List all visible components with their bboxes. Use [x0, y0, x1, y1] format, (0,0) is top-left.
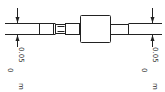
left-base-label: 0 [6, 68, 13, 72]
shaft-segment-3 [66, 24, 80, 35]
shaft-drawing [0, 0, 165, 92]
right-base-label: 0 [140, 68, 147, 72]
shaft-collar [81, 16, 111, 43]
shaft-segment-1 [40, 24, 54, 35]
shaft-segment-2 [56, 25, 66, 34]
right-unit-label: m [151, 83, 158, 90]
shaft-segment-4 [111, 25, 129, 35]
left-tolerance-label: 0.05 [17, 47, 24, 63]
left-unit-label: m [17, 83, 24, 90]
right-tolerance-label: 0.05 [151, 47, 158, 63]
